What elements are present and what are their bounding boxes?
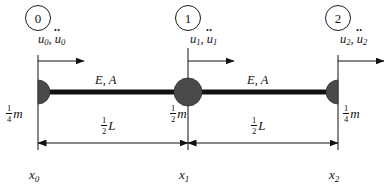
mass-fraction-numerator-1: 1 (170, 104, 176, 113)
mass-fraction-denominator-1: 2 (170, 115, 176, 124)
length-symbol-left: L (108, 119, 115, 132)
mass-fraction-denominator-2: 4 (343, 115, 349, 124)
figure-canvas: 0 1 2 u0, ••u0 u1, ••u1 u2, ••u2 (0, 0, 390, 193)
length-fraction-right: 1 2 (251, 116, 257, 135)
length-fraction-denominator-left: 2 (101, 127, 107, 136)
lumped-mass-node-0 (38, 80, 50, 104)
mass-label-node-0: 1 4 m (6, 104, 23, 123)
mass-fraction-denominator-0: 4 (6, 115, 12, 124)
coordinate-label-x2: x2 (329, 168, 339, 184)
length-fraction-numerator-left: 1 (101, 116, 107, 125)
mass-fraction-numerator-0: 1 (6, 104, 12, 113)
length-fraction-denominator-right: 2 (251, 127, 257, 136)
mass-fraction-node-2: 1 4 (343, 104, 349, 123)
length-fraction-numerator-right: 1 (251, 116, 257, 125)
coordinate-label-x1: x1 (179, 168, 189, 184)
lumped-mass-node-1 (174, 78, 202, 106)
material-label-right-element: E, A (247, 74, 268, 87)
coordinate-label-x0: x0 (29, 168, 39, 184)
coordinate-subscript-x1: 1 (185, 174, 190, 184)
mass-symbol-node-2: m (350, 107, 359, 120)
material-label-left-element: E, A (95, 74, 116, 87)
coordinate-subscript-x0: 0 (35, 174, 40, 184)
length-fraction-left: 1 2 (101, 116, 107, 135)
mass-label-node-2: 1 4 m (343, 104, 360, 123)
mass-fraction-node-1: 1 2 (170, 104, 176, 123)
mass-label-node-1: 1 2 m (170, 104, 187, 123)
dimension-label-left-span: 1 2 L (101, 116, 115, 135)
mass-fraction-node-0: 1 4 (6, 104, 12, 123)
mass-fraction-numerator-2: 1 (343, 104, 349, 113)
mass-symbol-node-0: m (13, 107, 22, 120)
lumped-mass-node-2 (326, 80, 338, 104)
diagram-vector-layer (0, 0, 390, 193)
coordinate-subscript-x2: 2 (335, 174, 340, 184)
dimension-label-right-span: 1 2 L (251, 116, 265, 135)
length-symbol-right: L (258, 119, 265, 132)
mass-symbol-node-1: m (177, 107, 186, 120)
